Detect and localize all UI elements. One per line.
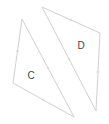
triangle-d-outline bbox=[42, 7, 100, 111]
edge-tick-mark bbox=[70, 19, 71, 22]
diagram-canvas: C D bbox=[0, 0, 109, 124]
triangle-c-label: C bbox=[27, 70, 34, 81]
triangle-d: D bbox=[42, 7, 100, 111]
triangle-c: C bbox=[13, 19, 74, 117]
triangle-c-outline bbox=[13, 19, 74, 117]
diagram-svg: C D bbox=[0, 0, 109, 124]
triangle-d-label: D bbox=[77, 40, 84, 51]
